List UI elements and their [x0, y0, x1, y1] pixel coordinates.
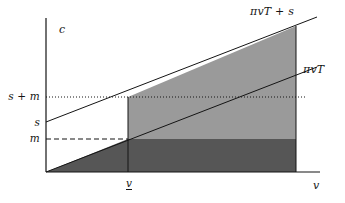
y-tick-label-s: s: [2, 117, 40, 128]
figure-container: c v s + m s m v πvT + s πvT: [0, 0, 345, 203]
upper-line-label: πvT + s: [250, 6, 294, 17]
x-axis-label: v: [313, 180, 319, 191]
y-axis-label: c: [59, 24, 65, 35]
y-tick-label-m: m: [2, 133, 40, 144]
y-tick-label-s-plus-m: s + m: [2, 91, 40, 102]
diagram-canvas: [0, 0, 345, 203]
lower-line-label: πvT: [303, 64, 324, 75]
x-tick-label-v-bar: v: [120, 178, 138, 190]
x-tick-label-v-bar-text: v: [126, 178, 132, 190]
light-shaded-region: [128, 26, 296, 139]
dark-shaded-region: [128, 139, 296, 172]
